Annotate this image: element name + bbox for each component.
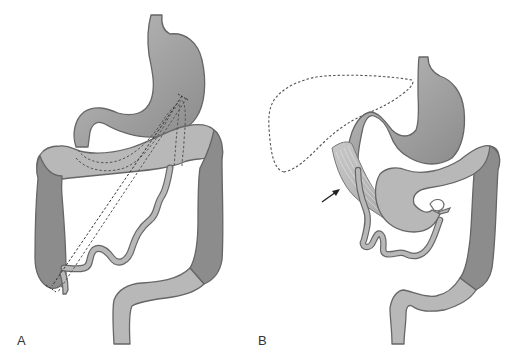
arrow-icon [322, 189, 340, 202]
colon-small-loop [430, 200, 444, 211]
panel-b: B [254, 0, 508, 357]
small-intestine-loop-fill [64, 168, 170, 269]
panel-a-illustration [0, 0, 254, 357]
panel-label-a: A [17, 333, 26, 348]
panel-a: A [0, 0, 254, 357]
panel-b-illustration [254, 0, 508, 357]
sigmoid-colon [113, 268, 204, 344]
panel-label-b: B [258, 333, 267, 348]
sigmoid-colon [390, 278, 476, 344]
stomach [344, 57, 465, 170]
